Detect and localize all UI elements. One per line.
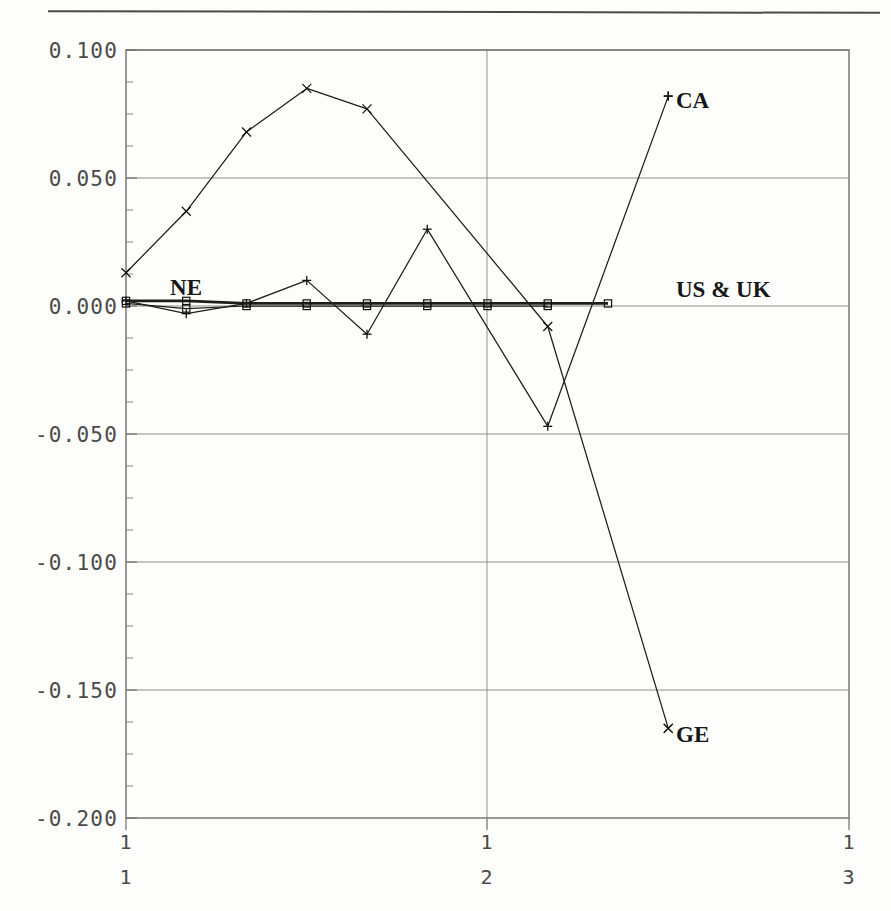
series-label-ca: CA	[676, 88, 710, 113]
x-tick-label-bottom: 1	[119, 865, 132, 889]
series-line	[126, 301, 608, 304]
y-tick-label: 0.000	[49, 295, 118, 319]
chart-page: 0.100 0.050 0.000 -0.050 -0.100 -0.150 -…	[0, 0, 891, 911]
line-chart: 0.100 0.050 0.000 -0.050 -0.100 -0.150 -…	[0, 0, 891, 911]
y-tick-label: -0.200	[35, 807, 118, 831]
y-tick-label: -0.100	[35, 551, 118, 575]
series-annotations: NE US & UK CA GE	[170, 88, 771, 747]
series-layer	[122, 84, 673, 733]
y-tick-label: 0.100	[49, 39, 118, 63]
x-axis-labels: 1 1 1 1 2 3	[119, 830, 855, 889]
x-tick-label-top: 1	[480, 830, 493, 854]
series-line	[126, 88, 668, 728]
series-label-us-uk: US & UK	[676, 277, 771, 302]
series-label-ne: NE	[170, 275, 202, 300]
y-axis-labels: 0.100 0.050 0.000 -0.050 -0.100 -0.150 -…	[35, 39, 118, 831]
x-tick-label-top: 1	[842, 830, 855, 854]
series-label-ge: GE	[676, 722, 709, 747]
series-ge	[122, 84, 673, 733]
y-tick-label: 0.050	[49, 167, 118, 191]
annotation-marker-ca	[664, 92, 673, 101]
x-axis-ticks	[126, 818, 849, 830]
x-tick-label-bottom: 3	[842, 865, 855, 889]
x-tick-label-bottom: 2	[480, 865, 493, 889]
x-tick-label-top: 1	[119, 830, 132, 854]
y-tick-label: -0.050	[35, 423, 118, 447]
chart-svg: 0.100 0.050 0.000 -0.050 -0.100 -0.150 -…	[0, 0, 891, 911]
y-tick-label: -0.150	[35, 679, 118, 703]
y-axis-ticks-major	[126, 50, 137, 818]
annotation-marker-ge	[664, 724, 673, 733]
series-ca	[122, 92, 673, 431]
